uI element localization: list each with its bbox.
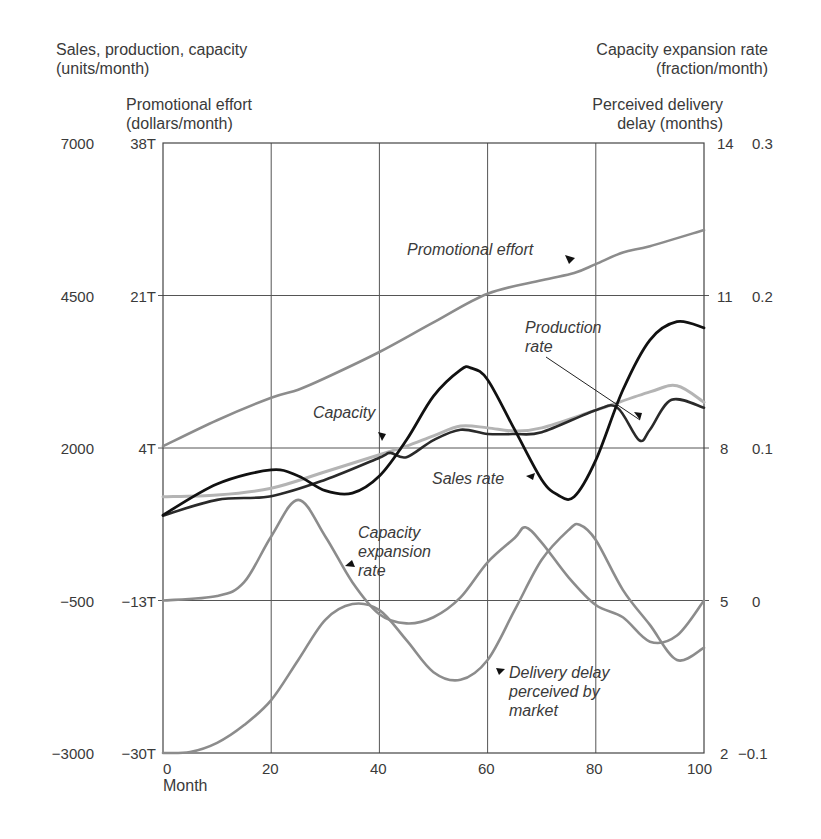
delivery-delay-pointer-icon xyxy=(496,668,505,675)
delivery-delay-line xyxy=(163,524,704,753)
line-chart xyxy=(0,0,821,839)
capacity-expansion-rate-label: Capacity expansion rate xyxy=(358,523,431,580)
promotional-effort-pointer-icon xyxy=(565,255,575,264)
promotional-effort-label: Promotional effort xyxy=(407,240,533,259)
capacity-expansion-pointer-icon xyxy=(345,560,355,567)
delivery-delay-label-line1: Delivery delay xyxy=(509,663,609,682)
production-rate-label-line2: rate xyxy=(525,337,602,356)
delivery-delay-label-line2: perceived by xyxy=(509,682,609,701)
production-rate-line xyxy=(163,399,704,516)
production-rate-label-line1: Production xyxy=(525,318,602,337)
delivery-delay-label: Delivery delay perceived by market xyxy=(509,663,609,720)
gridlines xyxy=(158,143,709,753)
series-lines xyxy=(163,230,704,753)
sales-rate-label: Sales rate xyxy=(432,469,504,488)
capacity-expansion-rate-line xyxy=(163,500,704,643)
sales-rate-pointer-icon xyxy=(526,473,535,480)
capacity-expansion-label-line3: rate xyxy=(358,561,431,580)
capacity-expansion-label-line2: expansion xyxy=(358,542,431,561)
capacity-label: Capacity xyxy=(313,403,375,422)
production-rate-label: Production rate xyxy=(525,318,602,356)
capacity-expansion-label-line1: Capacity xyxy=(358,523,431,542)
delivery-delay-label-line3: market xyxy=(509,701,609,720)
